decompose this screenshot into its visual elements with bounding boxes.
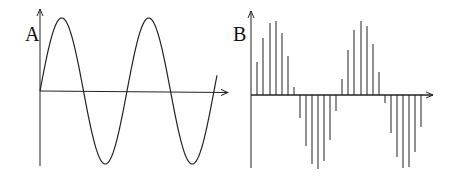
panel-a-label: A <box>25 23 40 45</box>
signal-diagram: A B <box>0 0 456 177</box>
panel-a: A <box>25 9 228 166</box>
panel-b-label: B <box>233 23 246 45</box>
panel-a-x-axis <box>40 91 228 93</box>
panel-b: B <box>233 11 433 169</box>
